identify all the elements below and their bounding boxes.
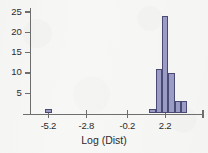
- y-axis-tick: [25, 72, 30, 73]
- x-axis-tick: [202, 110, 203, 118]
- y-axis-tick: [25, 52, 30, 53]
- x-axis-tick-label: -0.2: [107, 120, 147, 131]
- x-axis-label: Log (Dist): [0, 134, 208, 146]
- y-axis-tick-label: 10: [0, 66, 22, 77]
- histogram-figure: 510152025-5.2-2.8-0.22.2 Log (Dist): [0, 0, 208, 153]
- y-axis-tick: [25, 32, 30, 33]
- histogram-bar: [45, 109, 51, 113]
- x-axis-tick: [86, 110, 87, 118]
- x-axis-tick-label: -2.8: [66, 120, 106, 131]
- x-axis-tick: [127, 110, 128, 118]
- x-axis-line: [23, 114, 204, 115]
- histogram-bar: [181, 101, 187, 113]
- y-axis-tick-label: 15: [0, 46, 22, 57]
- y-axis-tick: [25, 11, 30, 12]
- x-axis-tick-label: 2.2: [145, 120, 185, 131]
- y-axis-tick-label: 5: [0, 87, 22, 98]
- x-axis-tick-label: -5.2: [28, 120, 68, 131]
- y-axis-tick: [25, 93, 30, 94]
- y-axis-tick-label: 25: [0, 6, 22, 17]
- y-axis-tick-label: 20: [0, 26, 22, 37]
- plot-area: 510152025-5.2-2.8-0.22.2: [0, 0, 208, 153]
- y-axis-line: [30, 8, 31, 114]
